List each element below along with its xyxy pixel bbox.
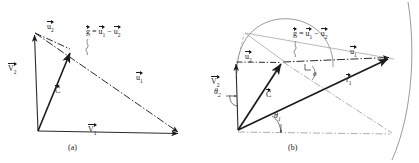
panel-a-label-u2: u2 — [47, 20, 54, 33]
panel-a-equation-equals: = — [92, 27, 97, 36]
panel-a-vector-v2 — [35, 35, 39, 131]
panel-b-label-r1: r1 — [346, 73, 351, 86]
vector-diagram-svg — [0, 0, 419, 163]
panel-b-equation-minus: − — [314, 29, 319, 38]
panel-b-angle-label-theta1: θ1 — [274, 111, 281, 122]
panel-a-label-v1: V1 — [88, 123, 97, 136]
panel-b-equation-g: g = u1 − u2 — [293, 27, 328, 40]
panel-b-angle-marker-psi — [305, 64, 311, 70]
panel-b-equation-equals: = — [299, 29, 304, 38]
panel-a-equation-leader — [86, 39, 88, 55]
panel-a-vector-u2 — [35, 33, 70, 49]
panel-b-arc-outer — [392, 2, 412, 160]
panel-a-vector-g — [35, 33, 178, 132]
panel-b-angle-label-theta2: θ2 — [214, 87, 221, 98]
panel-b-geometry — [226, 2, 412, 160]
panel-a-vector-v1 — [38, 131, 178, 134]
panel-b-vector-u2 — [237, 62, 282, 63]
figure-container: u2 V2 C u1 V1 g = u1 − u2 (a) u2 V2 C u1… — [0, 0, 419, 163]
panel-b-label-u1: u1 — [350, 45, 357, 58]
panel-b-vector-g — [283, 58, 389, 63]
panel-b-equation-leader — [294, 41, 296, 57]
panel-b-line-construction-diagonal — [283, 62, 392, 133]
panel-b-angle-label-psi: θ — [313, 70, 316, 78]
panel-a-label-u1: u1 — [136, 71, 143, 84]
panel-a-label-c: C — [55, 84, 60, 95]
panel-b-label-c: C — [266, 88, 271, 99]
panel-b-label-u2: u2 — [245, 50, 252, 63]
panel-a-vector-c — [38, 53, 70, 131]
panel-b-caption: (b) — [288, 143, 297, 152]
panel-a-equation-minus: − — [107, 27, 112, 36]
panel-a-label-v2: V2 — [8, 62, 17, 75]
panel-b-vector-v2 — [236, 64, 238, 130]
panel-a-equation-g: g = u1 − u2 — [86, 25, 121, 38]
panel-a-caption: (a) — [68, 143, 77, 152]
panel-b-line-v1-baseline — [238, 132, 390, 134]
